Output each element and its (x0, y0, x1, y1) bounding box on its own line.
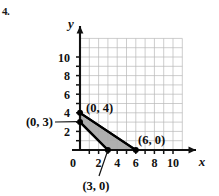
annotation-label-6-0: (6, 0) (138, 133, 165, 147)
y-axis-label: y (66, 16, 74, 31)
coordinate-plane-plot: 10 8 6 4 2 0 2 4 6 8 10 y x (0, 4) (0, 3… (0, 0, 219, 196)
annotation-label-3-0: (3, 0) (82, 179, 109, 193)
x-tick-label-10: 10 (167, 156, 179, 170)
y-tick-label-6: 6 (64, 88, 70, 102)
vertex-dot-0-4 (77, 110, 83, 116)
vertex-dot-6-0 (133, 147, 139, 153)
x-tick-label-2: 2 (96, 156, 102, 170)
x-tick-label-8: 8 (151, 156, 157, 170)
graph-figure: 4. (0, 0, 219, 196)
y-tick-label-8: 8 (64, 69, 70, 83)
y-tick-label-4: 4 (64, 106, 70, 120)
x-tick-label-4: 4 (114, 156, 120, 170)
y-axis-arrow (77, 26, 84, 34)
annotation-label-0-4: (0, 4) (86, 101, 113, 115)
x-axis-arrow (189, 147, 197, 154)
x-tick-label-0: 0 (70, 156, 76, 170)
y-tick-label-10: 10 (58, 51, 70, 65)
vertex-dot-3-0 (105, 147, 111, 153)
x-tick-label-6: 6 (133, 156, 139, 170)
annotation-label-0-3: (0, 3) (26, 115, 53, 129)
y-tick-label-2: 2 (64, 125, 70, 139)
x-axis-label: x (198, 154, 206, 169)
